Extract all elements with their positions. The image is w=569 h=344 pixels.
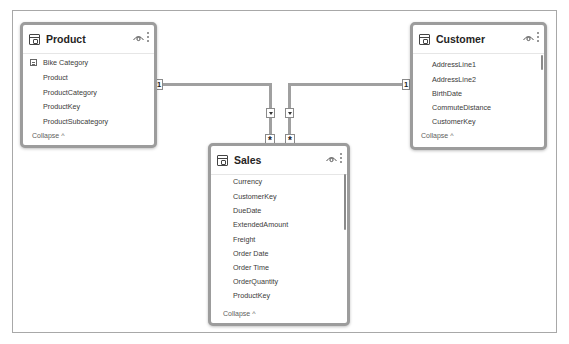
field-item[interactable]: Order Date xyxy=(233,249,269,258)
more-options-icon[interactable] xyxy=(340,153,342,165)
field-item[interactable]: AddressLine1 xyxy=(432,60,476,69)
field-item[interactable]: CommuteDistance xyxy=(432,103,491,112)
table-icon xyxy=(29,34,40,45)
field-item[interactable]: DueDate xyxy=(233,206,261,215)
field-item[interactable]: AddressLine2 xyxy=(432,75,476,84)
field-item[interactable]: BirthDate xyxy=(432,89,462,98)
field-item[interactable]: CustomerKey xyxy=(233,192,277,201)
field-item[interactable]: CustomerKey xyxy=(432,117,476,126)
filter-direction-icon xyxy=(266,108,275,118)
table-card-header[interactable]: Product xyxy=(23,25,154,54)
table-card-product[interactable]: Product Bike Category Product ProductCat… xyxy=(20,22,157,148)
field-item[interactable]: Bike Category xyxy=(43,58,88,67)
field-item[interactable]: ProductKey xyxy=(43,102,80,111)
field-item[interactable]: OrderQuantity xyxy=(233,277,278,286)
table-card-header[interactable]: Sales xyxy=(211,146,347,175)
relationship-line-product-sales[interactable] xyxy=(162,83,272,86)
visibility-eye-icon[interactable] xyxy=(326,155,337,163)
field-item[interactable]: ExtendedAmount xyxy=(233,220,288,229)
more-options-icon[interactable] xyxy=(147,32,149,44)
visibility-eye-icon[interactable] xyxy=(133,34,144,42)
more-options-icon[interactable] xyxy=(537,32,539,44)
table-icon xyxy=(419,34,430,45)
field-item[interactable]: ProductKey xyxy=(233,291,270,300)
visibility-eye-icon[interactable] xyxy=(523,34,534,42)
scrollbar[interactable] xyxy=(344,174,346,230)
table-card-header[interactable]: Customer xyxy=(413,25,544,54)
table-card-sales[interactable]: Sales Currency CustomerKey DueDate Exten… xyxy=(208,143,350,326)
calculated-column-icon xyxy=(30,59,37,66)
table-title: Customer xyxy=(436,33,485,45)
field-item[interactable]: Order Time xyxy=(233,263,269,272)
cardinality-one-badge-customer: 1 xyxy=(402,79,410,90)
field-item[interactable]: Product xyxy=(43,73,68,82)
field-item[interactable]: Currency xyxy=(233,177,262,186)
table-icon xyxy=(217,155,228,166)
collapse-button[interactable]: Collapse ^ xyxy=(32,132,64,139)
table-title: Product xyxy=(46,33,86,45)
field-item[interactable]: Freight xyxy=(233,235,255,244)
table-title: Sales xyxy=(234,154,261,166)
scrollbar[interactable] xyxy=(541,55,543,70)
field-item[interactable]: ProductSubcategory xyxy=(43,117,108,126)
collapse-button[interactable]: Collapse ^ xyxy=(223,310,255,317)
collapse-button[interactable]: Collapse ^ xyxy=(421,132,453,139)
filter-direction-icon xyxy=(285,108,294,118)
relationship-line-customer-sales[interactable] xyxy=(288,83,404,86)
table-card-customer[interactable]: Customer AddressLine1 AddressLine2 Birth… xyxy=(410,22,547,150)
field-item[interactable]: ProductCategory xyxy=(43,88,97,97)
